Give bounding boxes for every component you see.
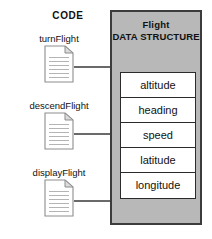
field-row: speed: [121, 123, 195, 148]
code-column-heading: CODE: [30, 10, 106, 22]
document-icon: [44, 179, 74, 217]
code-node-descendflight[interactable]: descendFlight: [12, 100, 106, 150]
flight-data-structure-box: Flight DATA STRUCTURE altitude heading s…: [110, 10, 202, 225]
field-row: longitude: [121, 173, 195, 198]
field-row: latitude: [121, 148, 195, 173]
connector-line-turnflight: [74, 66, 112, 68]
flight-data-structure-diagram: CODE turnFlight descendFlight: [0, 0, 212, 239]
code-node-turnflight[interactable]: turnFlight: [12, 33, 106, 83]
data-structure-field-list: altitude heading speed latitude longitud…: [120, 72, 196, 199]
data-structure-title-line1: Flight: [112, 19, 200, 31]
connector-line-descendflight: [74, 133, 112, 135]
document-icon: [44, 112, 74, 150]
code-node-label: turnFlight: [12, 33, 106, 44]
data-structure-title: Flight DATA STRUCTURE: [112, 19, 200, 42]
code-node-displayflight[interactable]: displayFlight: [12, 167, 106, 217]
code-node-label: descendFlight: [12, 100, 106, 111]
field-row: heading: [121, 98, 195, 123]
code-node-label: displayFlight: [12, 167, 106, 178]
field-row: altitude: [121, 73, 195, 98]
document-icon: [44, 45, 74, 83]
connector-line-displayflight: [74, 200, 112, 202]
data-structure-title-line2: DATA STRUCTURE: [112, 31, 200, 43]
